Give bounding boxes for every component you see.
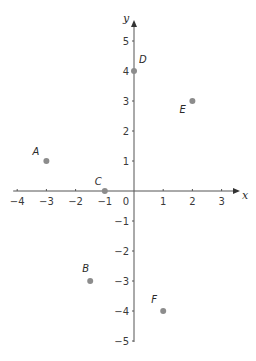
- point-marker-icon: [131, 68, 137, 74]
- x-tick-label: 2: [189, 196, 195, 207]
- y-tick-label: 1: [123, 156, 129, 167]
- origin-label: 0: [123, 196, 129, 207]
- point-f: F: [151, 294, 166, 314]
- x-tick-label: 3: [218, 196, 224, 207]
- y-tick-label: 4: [123, 66, 129, 77]
- axes: xy: [13, 12, 249, 342]
- data-points: ABCDEF: [31, 54, 195, 314]
- point-label: F: [151, 294, 157, 305]
- y-tick-label: −3: [114, 276, 129, 287]
- y-tick-label: 5: [123, 36, 129, 47]
- point-a: A: [31, 146, 49, 164]
- point-d: D: [131, 54, 147, 74]
- y-tick-label: 2: [123, 126, 129, 137]
- y-tick-label: −4: [114, 306, 129, 317]
- point-label: D: [139, 54, 147, 65]
- point-label: C: [95, 176, 102, 187]
- y-tick-label: 3: [123, 96, 129, 107]
- x-tick-label: −1: [97, 196, 112, 207]
- x-tick-label: −2: [68, 196, 83, 207]
- point-label: B: [82, 263, 89, 274]
- x-axis-arrow-icon: [233, 188, 240, 194]
- y-axis-arrow-icon: [131, 20, 137, 27]
- coordinate-plane: xy −4−3−2−11230−5−4−3−2−112345 ABCDEF: [0, 0, 256, 361]
- y-tick-label: −5: [114, 336, 129, 347]
- point-marker-icon: [43, 158, 49, 164]
- point-label: A: [31, 146, 39, 157]
- y-tick-label: −1: [114, 216, 129, 227]
- point-marker-icon: [160, 308, 166, 314]
- point-marker-icon: [189, 98, 195, 104]
- y-axis-label: y: [122, 12, 130, 25]
- x-tick-label: −4: [10, 196, 25, 207]
- point-marker-icon: [87, 278, 93, 284]
- point-b: B: [82, 263, 93, 284]
- x-tick-label: −3: [39, 196, 54, 207]
- x-axis-label: x: [242, 189, 249, 202]
- point-label: E: [179, 104, 186, 115]
- x-tick-label: 1: [160, 196, 166, 207]
- y-tick-label: −2: [114, 246, 129, 257]
- point-marker-icon: [102, 188, 108, 194]
- point-e: E: [179, 98, 195, 115]
